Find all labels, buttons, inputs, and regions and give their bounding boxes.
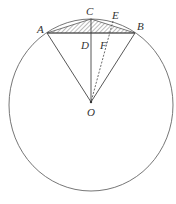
label-e: E (111, 9, 119, 21)
label-d: D (80, 39, 89, 51)
label-o: O (87, 106, 95, 118)
center-point-o (90, 101, 92, 103)
label-b: B (137, 20, 144, 32)
label-c: C (86, 5, 94, 17)
geometry-diagram: A B C E D F O (0, 0, 176, 204)
label-f: F (99, 39, 107, 51)
segment-bo (91, 33, 135, 102)
label-a: A (36, 23, 44, 35)
